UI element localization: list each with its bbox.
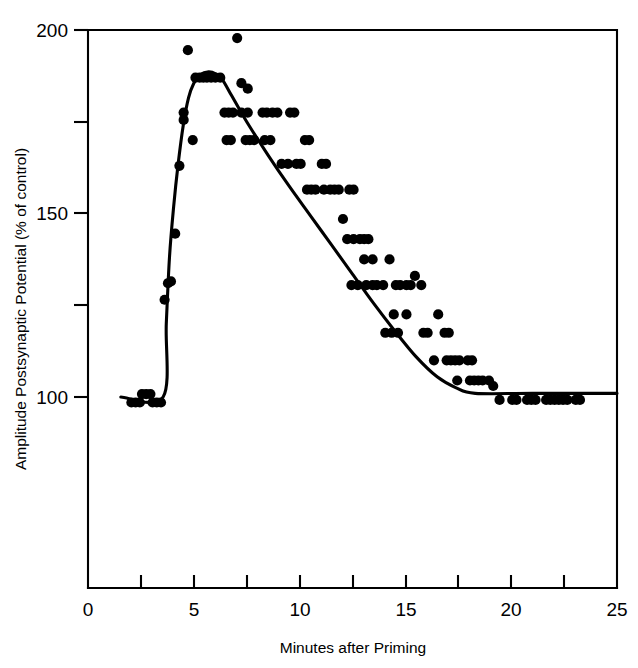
data-point	[243, 84, 253, 94]
x-tick-label-10: 10	[289, 599, 310, 620]
y-axis-ticks	[74, 30, 88, 397]
data-point	[265, 135, 275, 145]
data-point	[429, 355, 439, 365]
data-point	[530, 395, 540, 405]
data-point	[384, 254, 394, 264]
data-point	[272, 107, 282, 117]
x-tick-label-0: 0	[83, 599, 94, 620]
data-point	[289, 107, 299, 117]
x-axis-tick-labels: 0 5 10 15 20 25	[83, 599, 628, 620]
data-point	[170, 229, 180, 239]
data-point	[410, 271, 420, 281]
x-tick-label-25: 25	[606, 599, 627, 620]
data-point	[183, 45, 193, 55]
data-point	[416, 280, 426, 290]
data-point	[368, 254, 378, 264]
data-point	[304, 135, 314, 145]
data-point	[348, 185, 358, 195]
data-point	[363, 234, 373, 244]
data-point	[249, 135, 259, 145]
data-point	[321, 159, 331, 169]
data-point	[215, 73, 225, 83]
data-point	[401, 309, 411, 319]
data-point	[433, 309, 443, 319]
data-point	[467, 355, 477, 365]
data-point	[338, 214, 348, 224]
chart-figure: 200 150 100 0 5 10 15 20 25 Minutes	[0, 0, 638, 668]
data-point	[406, 280, 416, 290]
data-point	[188, 135, 198, 145]
x-axis-ticks	[88, 575, 564, 588]
data-point	[232, 33, 242, 43]
data-point	[226, 135, 236, 145]
data-point	[511, 395, 521, 405]
data-point	[393, 328, 403, 338]
chart-svg: 200 150 100 0 5 10 15 20 25 Minutes	[0, 0, 638, 668]
y-tick-label-100: 100	[36, 387, 68, 408]
data-point	[160, 295, 170, 305]
x-tick-label-15: 15	[395, 599, 416, 620]
data-point	[378, 280, 388, 290]
data-point	[179, 107, 189, 117]
x-axis-title: Minutes after Priming	[280, 639, 426, 656]
data-point	[423, 328, 433, 338]
x-tick-label-5: 5	[189, 599, 200, 620]
data-point	[156, 397, 166, 407]
data-point	[452, 375, 462, 385]
scatter-points	[126, 33, 585, 408]
x-tick-label-20: 20	[500, 599, 521, 620]
data-point	[166, 276, 176, 286]
y-axis-title: Amplitude Postsynaptic Potential (% of c…	[12, 148, 29, 470]
data-point	[488, 381, 498, 391]
data-point	[444, 328, 454, 338]
data-point	[389, 309, 399, 319]
data-point	[334, 185, 344, 195]
y-tick-label-200: 200	[36, 20, 68, 41]
data-point	[243, 107, 253, 117]
data-point	[494, 395, 504, 405]
data-point	[296, 159, 306, 169]
data-point	[174, 161, 184, 171]
data-point	[575, 395, 585, 405]
y-axis-tick-labels: 200 150 100	[36, 20, 68, 408]
y-tick-label-150: 150	[36, 203, 68, 224]
